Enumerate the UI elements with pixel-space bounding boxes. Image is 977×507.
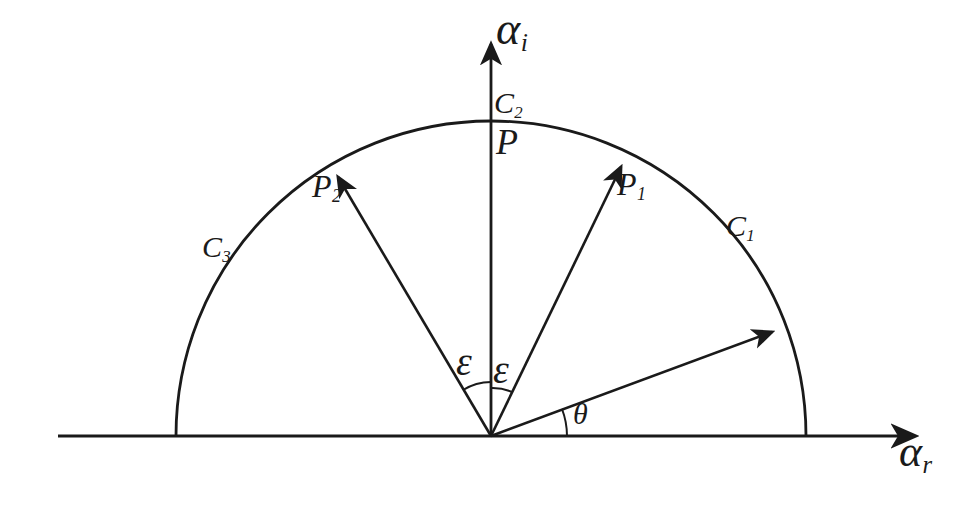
p1-point-label: P1	[617, 168, 646, 204]
p2-main: P	[312, 168, 332, 204]
p2-point-label: P2	[312, 170, 341, 206]
alpha-r-main: α	[899, 427, 922, 476]
alpha-i-sub: i	[521, 28, 528, 57]
theta-angle-label: θ	[573, 399, 588, 429]
c3-main: C	[202, 230, 222, 263]
alpha-r-axis-label: αr	[899, 430, 932, 478]
alpha-i-axis-label: αi	[496, 6, 528, 56]
c3-sub: 3	[222, 247, 230, 266]
c1-main: C	[726, 209, 746, 242]
p-main: P	[496, 122, 518, 162]
epsilon-right-angle-label: ε	[493, 350, 509, 390]
c2-main: C	[494, 86, 514, 119]
c2-contour-label: C2	[494, 88, 523, 122]
p1-main: P	[617, 166, 637, 202]
c1-sub: 1	[746, 226, 754, 245]
figure-canvas: αi αr C1 C2 C3 P P1 P2 ε ε θ	[0, 0, 977, 507]
vector-p2	[338, 177, 491, 436]
alpha-r-sub: r	[923, 451, 933, 478]
alpha-i-main: α	[496, 3, 520, 54]
p1-sub: 1	[637, 184, 646, 204]
diagram-svg	[0, 0, 977, 507]
p-point-label: P	[496, 124, 518, 163]
c1-contour-label: C1	[726, 211, 755, 245]
c2-sub: 2	[514, 103, 522, 122]
angle-arc-theta	[562, 409, 567, 436]
epsilon-left-angle-label: ε	[456, 342, 472, 382]
p2-sub: 2	[332, 186, 341, 206]
c3-contour-label: C3	[202, 232, 231, 266]
